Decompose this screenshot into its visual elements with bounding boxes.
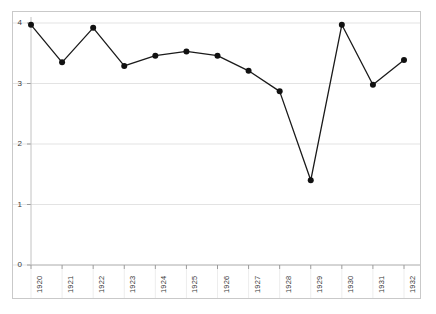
y-tick-label: 4 [8, 19, 22, 27]
x-tick-label: 1930 [346, 276, 355, 294]
data-point-marker [28, 22, 34, 28]
data-point-marker [59, 59, 65, 65]
y-tick-label: 2 [8, 140, 22, 148]
x-tick-label: 1924 [159, 276, 168, 294]
x-tick-label: 1932 [408, 276, 417, 294]
line-chart: 01234 1920192119221923192419251926192719… [0, 0, 436, 314]
x-tick-label: 1929 [315, 276, 324, 294]
x-tick-label: 1920 [35, 276, 44, 294]
data-point-marker [152, 53, 158, 59]
y-tick-label: 0 [8, 261, 22, 269]
data-point-marker [277, 88, 283, 94]
y-tick-label: 1 [8, 201, 22, 209]
y-tick-label: 3 [8, 80, 22, 88]
series-line [31, 25, 404, 180]
data-point-marker [215, 53, 221, 59]
x-tick-label: 1922 [97, 276, 106, 294]
data-point-marker [90, 25, 96, 31]
data-point-marker [246, 68, 252, 74]
data-point-marker [401, 57, 407, 63]
data-point-marker [121, 63, 127, 69]
data-point-marker [183, 48, 189, 54]
data-point-marker [308, 177, 314, 183]
x-tick-label: 1931 [377, 276, 386, 294]
x-tick-label: 1927 [253, 276, 262, 294]
data-point-marker [370, 82, 376, 88]
x-tick-label: 1925 [190, 276, 199, 294]
x-tick-label: 1928 [284, 276, 293, 294]
chart-canvas [0, 0, 436, 314]
data-point-marker [339, 22, 345, 28]
x-tick-label: 1923 [128, 276, 137, 294]
x-tick-label: 1921 [66, 276, 75, 294]
x-tick-label: 1926 [222, 276, 231, 294]
